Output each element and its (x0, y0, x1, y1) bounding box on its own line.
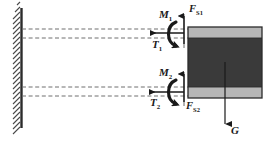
label-FS2: FS2 (186, 101, 200, 114)
label-M1: M1 (159, 9, 172, 23)
block-top-band (188, 27, 262, 38)
label-T1: T1 (152, 39, 162, 53)
label-FS1: FS1 (189, 4, 203, 17)
fixed-support-wall (13, 2, 22, 134)
label-T2: T2 (150, 97, 160, 111)
wall-hatch-group (13, 2, 20, 134)
free-body-diagram-figure: M1 FS1 T1 M2 T2 FS2 G (0, 0, 275, 143)
label-M2: M2 (159, 67, 172, 81)
label-G: G (231, 125, 239, 139)
reference-axis-lines (22, 29, 188, 96)
M1-moment-arc (169, 22, 177, 46)
diagram-canvas (0, 0, 275, 143)
